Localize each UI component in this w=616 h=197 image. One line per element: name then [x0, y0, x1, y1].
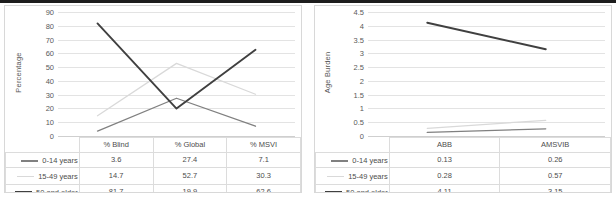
table-column-header-left-0: % Blind — [79, 138, 153, 153]
table-cell-left-2-2: 62.6 — [227, 184, 301, 193]
y-tick-label-right-3: 3 — [360, 49, 364, 58]
table-row: 15-49 years14.752.730.3 — [6, 168, 301, 184]
table-column-header-left-1: % Global — [153, 138, 227, 153]
legend-swatch-icon — [327, 176, 344, 177]
table-column-header-left-2: % MSVI — [227, 138, 301, 153]
table-row: 0-14 years0.130.26 — [316, 152, 611, 168]
series-line-right-2 — [427, 23, 546, 49]
data-table-right: ABBAMSVIB0-14 years0.130.2615-49 years0.… — [315, 137, 611, 192]
y-axis-ticks-left: 9080706050403020100 — [23, 12, 56, 136]
y-tick-label-right-2: 3.5 — [354, 35, 364, 44]
y-tick-label-left-6: 30 — [46, 90, 54, 99]
table-cell-left-1-2: 30.3 — [227, 168, 301, 184]
table-corner-cell-left — [6, 138, 80, 153]
legend-swatch-icon — [15, 191, 32, 193]
legend-label: 15-49 years — [38, 170, 78, 184]
table-header-row-right: ABBAMSVIB — [316, 138, 611, 153]
y-tick-label-left-2: 70 — [46, 35, 54, 44]
legend-entry-left-2: 50 and older — [6, 184, 80, 193]
y-tick-label-right-6: 1.5 — [354, 90, 364, 99]
legend-label: 50 and older — [36, 186, 78, 193]
table-column-header-right-0: ABB — [389, 138, 500, 153]
figure-container: Percentage 9080706050403020100 % Blind% … — [0, 3, 616, 197]
table-cell-right-1-1: 0.57 — [500, 168, 611, 184]
table-cell-left-0-1: 27.4 — [153, 152, 227, 168]
table-row: 0-14 years3.627.47.1 — [6, 152, 301, 168]
plot-region-right: Age Burden 4.543.532.521.510.50 — [315, 6, 611, 139]
legend-label: 0-14 years — [42, 154, 77, 168]
table-header-row-left: % Blind% Global% MSVI — [6, 138, 301, 153]
table-cell-right-2-1: 3.15 — [500, 184, 611, 193]
table-cell-left-1-1: 52.7 — [153, 168, 227, 184]
legend-label: 0-14 years — [352, 154, 387, 168]
y-tick-label-left-7: 20 — [46, 104, 54, 113]
table-cell-left-2-0: 81.7 — [79, 184, 153, 193]
series-line-right-1 — [427, 120, 546, 128]
data-table-left: % Blind% Global% MSVI0-14 years3.627.47.… — [5, 137, 301, 192]
legend-swatch-icon — [325, 191, 342, 193]
table-cell-right-2-0: 4.11 — [389, 184, 500, 193]
legend-entry-left-0: 0-14 years — [6, 152, 80, 168]
table-row: 15-49 years0.280.57 — [316, 168, 611, 184]
plot-area-left — [58, 12, 295, 136]
line-series-group-left — [58, 12, 295, 136]
table-cell-left-0-0: 3.6 — [79, 152, 153, 168]
legend-entry-right-1: 15-49 years — [316, 168, 390, 184]
y-tick-label-right-0: 4.5 — [354, 8, 364, 17]
table-row: 50 and older81.719.962.6 — [6, 184, 301, 193]
y-tick-label-right-7: 1 — [360, 104, 364, 113]
series-line-left-0 — [98, 98, 256, 131]
legend-label: 15-49 years — [348, 170, 388, 184]
table-cell-right-0-0: 0.13 — [389, 152, 500, 168]
legend-swatch-icon — [331, 160, 348, 162]
table-row: 50 and older4.113.15 — [316, 184, 611, 193]
y-tick-label-right-1: 4 — [360, 21, 364, 30]
y-tick-label-left-1: 80 — [46, 21, 54, 30]
table-cell-right-0-1: 0.26 — [500, 152, 611, 168]
table-cell-right-1-0: 0.28 — [389, 168, 500, 184]
legend-swatch-icon — [21, 160, 38, 162]
table-column-header-right-1: AMSVIB — [500, 138, 611, 153]
legend-label: 50 and older — [346, 186, 388, 193]
y-tick-label-left-5: 40 — [46, 76, 54, 85]
table-corner-cell-right — [316, 138, 390, 153]
y-axis-ticks-right: 4.543.532.521.510.50 — [333, 12, 366, 136]
y-tick-label-left-8: 10 — [46, 118, 54, 127]
table-cell-left-1-0: 14.7 — [79, 168, 153, 184]
legend-swatch-icon — [17, 176, 34, 177]
legend-entry-left-1: 15-49 years — [6, 168, 80, 184]
series-line-right-0 — [427, 129, 546, 133]
y-tick-label-right-5: 2 — [360, 76, 364, 85]
table-cell-left-2-1: 19.9 — [153, 184, 227, 193]
line-series-group-right — [368, 12, 605, 136]
y-tick-label-left-0: 90 — [46, 8, 54, 17]
y-tick-label-left-3: 60 — [46, 49, 54, 58]
legend-entry-right-0: 0-14 years — [316, 152, 390, 168]
y-tick-label-right-4: 2.5 — [354, 63, 364, 72]
plot-area-right — [368, 12, 605, 136]
y-tick-label-right-8: 0.5 — [354, 118, 364, 127]
plot-region-left: Percentage 9080706050403020100 — [5, 6, 301, 139]
chart-panel-percentage: Percentage 9080706050403020100 % Blind% … — [4, 5, 302, 193]
table-cell-left-0-2: 7.1 — [227, 152, 301, 168]
legend-entry-right-2: 50 and older — [316, 184, 390, 193]
series-line-left-2 — [98, 23, 256, 108]
chart-panel-age-burden: Age Burden 4.543.532.521.510.50 ABBAMSVI… — [314, 5, 612, 193]
y-tick-label-left-4: 50 — [46, 63, 54, 72]
